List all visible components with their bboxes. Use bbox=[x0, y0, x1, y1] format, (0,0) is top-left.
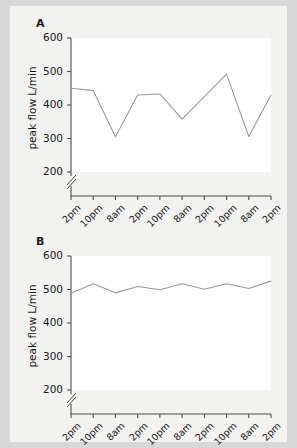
y-tick-label: 400 bbox=[29, 98, 63, 110]
y-tick-label: 300 bbox=[29, 132, 63, 144]
y-tick-label: 400 bbox=[29, 316, 63, 328]
data-line-series bbox=[71, 74, 271, 137]
y-tick-label: 200 bbox=[29, 383, 63, 395]
figure-canvas: A peak flow L/min 2003004005006002pm10pm… bbox=[10, 6, 287, 442]
y-tick-label: 500 bbox=[29, 283, 63, 295]
y-tick-label: 600 bbox=[29, 31, 63, 43]
chart-panel-a: A peak flow L/min 2003004005006002pm10pm… bbox=[10, 6, 287, 224]
y-tick-label: 500 bbox=[29, 65, 63, 77]
chart-panel-b: B peak flow L/min 2003004005006002pm10pm… bbox=[10, 224, 287, 442]
y-tick-label: 200 bbox=[29, 165, 63, 177]
data-line-series bbox=[71, 281, 271, 293]
y-tick-label: 600 bbox=[29, 249, 63, 261]
y-tick-label: 300 bbox=[29, 350, 63, 362]
